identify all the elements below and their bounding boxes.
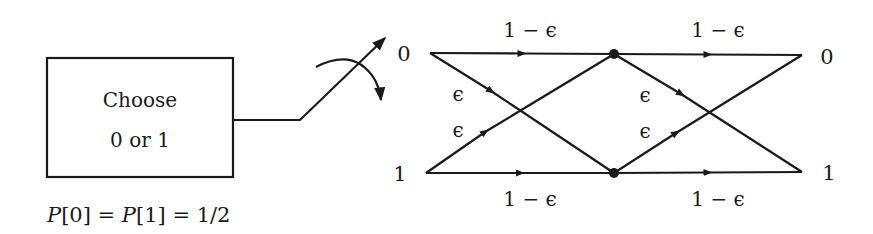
output-label-1: 1: [822, 161, 835, 185]
probability-label: P[0] = P[1] = 1/2: [46, 203, 230, 227]
switch-arm: [233, 38, 385, 120]
stage1-cross-up-prob: ϵ: [452, 118, 463, 142]
stage1-top-prob: 1 − ϵ: [503, 18, 556, 42]
stage1-cross-down-prob: ϵ: [452, 82, 463, 106]
stage2-top-edge: [614, 54, 802, 55]
stage1-top-edge: [430, 53, 614, 54]
source-box: Choose 0 or 1: [47, 58, 233, 177]
source-box-line2: 0 or 1: [110, 128, 170, 152]
stage2-top-prob: 1 − ϵ: [691, 18, 744, 42]
stage2-cross-down-prob: ϵ: [639, 83, 650, 107]
stage2-bottom-edge: [614, 172, 802, 173]
bsc-cascade-diagram: Choose 0 or 1 P[0] = P[1] = 1/2 0 1 1 − …: [0, 0, 873, 234]
output-label-0: 0: [820, 45, 833, 69]
input-label-0: 0: [397, 42, 410, 66]
channel-stage-1: [426, 53, 614, 173]
stage2-bottom-prob: 1 − ϵ: [691, 187, 744, 211]
stage2-cross-up-prob: ϵ: [639, 119, 650, 143]
source-box-line1: Choose: [103, 88, 177, 112]
channel-stage-2: [614, 54, 802, 173]
stage1-bottom-prob: 1 − ϵ: [503, 187, 556, 211]
switch: [233, 38, 385, 120]
input-label-1: 1: [393, 162, 406, 186]
stage2-cross-up-edge: [614, 55, 802, 173]
